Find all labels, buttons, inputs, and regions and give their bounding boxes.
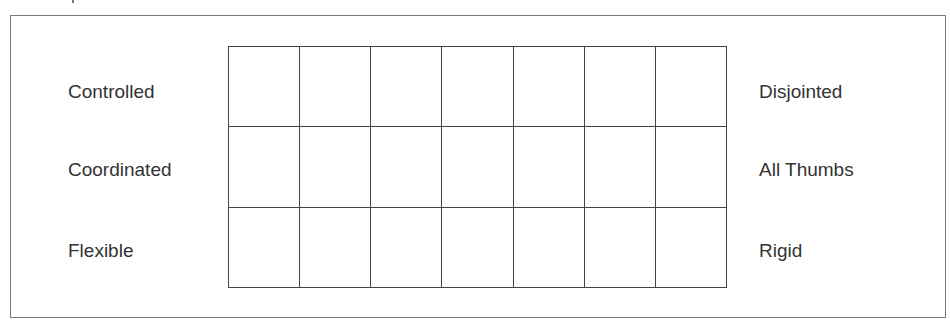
right-label-row-3: Rigid (759, 241, 802, 260)
rating-cell-r3-c6[interactable] (585, 208, 656, 288)
rating-cell-r2-c6[interactable] (585, 127, 656, 207)
left-label-row-1: Controlled (68, 82, 155, 101)
rating-cell-r3-c1[interactable] (229, 208, 300, 288)
rating-grid (228, 46, 727, 288)
rating-cell-r3-c2[interactable] (300, 208, 371, 288)
rating-cell-r3-c4[interactable] (442, 208, 513, 288)
rating-cell-r2-c2[interactable] (300, 127, 371, 207)
rating-cell-r1-c6[interactable] (585, 47, 656, 127)
right-label-row-1: Disjointed (759, 82, 842, 101)
rating-cell-r2-c3[interactable] (371, 127, 442, 207)
rating-cell-r2-c5[interactable] (514, 127, 585, 207)
rating-cell-r2-c7[interactable] (656, 127, 727, 207)
rating-cell-r3-c7[interactable] (656, 208, 727, 288)
rating-cell-r3-c5[interactable] (514, 208, 585, 288)
rating-cell-r1-c1[interactable] (229, 47, 300, 127)
left-label-row-3: Flexible (68, 241, 133, 260)
left-label-row-2: Coordinated (68, 160, 172, 179)
rating-cell-r1-c5[interactable] (514, 47, 585, 127)
rating-cell-r1-c4[interactable] (442, 47, 513, 127)
page-mark (72, 0, 74, 3)
rating-cell-r2-c1[interactable] (229, 127, 300, 207)
rating-cell-r1-c2[interactable] (300, 47, 371, 127)
rating-cell-r1-c7[interactable] (656, 47, 727, 127)
rating-cell-r2-c4[interactable] (442, 127, 513, 207)
rating-cell-r3-c3[interactable] (371, 208, 442, 288)
rating-cell-r1-c3[interactable] (371, 47, 442, 127)
right-label-row-2: All Thumbs (759, 160, 854, 179)
